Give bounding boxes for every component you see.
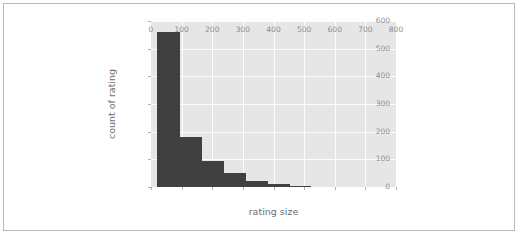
- x-tick-label: 200: [205, 26, 219, 34]
- y-tick-label: 600: [376, 17, 390, 25]
- y-tick-label: 100: [376, 155, 390, 163]
- x-tick-mark: [304, 187, 305, 190]
- x-tick-label: 800: [389, 26, 403, 34]
- y-tick-label: 500: [376, 45, 390, 53]
- x-tick-mark: [365, 187, 366, 190]
- histogram-bar: [202, 161, 224, 187]
- histogram-chart: 0100200300400500600010020030040050060070…: [4, 4, 516, 232]
- x-tick-label: 600: [328, 26, 342, 34]
- x-tick-label: 300: [236, 26, 250, 34]
- x-tick-label: 0: [149, 26, 154, 34]
- x-tick-mark: [243, 187, 244, 190]
- histogram-bar: [224, 173, 246, 187]
- x-axis-label: rating size: [151, 206, 396, 217]
- plot-area: 0100200300400500600010020030040050060070…: [151, 21, 396, 187]
- gridline-vertical: [274, 21, 275, 187]
- x-tick-mark: [396, 187, 397, 190]
- figure-frame: 0100200300400500600010020030040050060070…: [3, 3, 515, 231]
- y-tick-label: 300: [376, 100, 390, 108]
- y-axis-label: count of rating: [106, 69, 117, 139]
- histogram-bar: [268, 184, 290, 187]
- y-tick-label: 200: [376, 128, 390, 136]
- y-tick-label: 0: [385, 183, 390, 191]
- x-tick-label: 400: [266, 26, 280, 34]
- x-tick-mark: [182, 187, 183, 190]
- gridline-vertical: [335, 21, 336, 187]
- x-tick-mark: [212, 187, 213, 190]
- y-tick-mark: [148, 49, 151, 50]
- y-tick-label: 400: [376, 72, 390, 80]
- x-tick-label: 500: [297, 26, 311, 34]
- histogram-bar: [246, 181, 268, 187]
- x-tick-label: 700: [358, 26, 372, 34]
- x-tick-mark: [274, 187, 275, 190]
- y-tick-mark: [148, 159, 151, 160]
- gridline-vertical: [243, 21, 244, 187]
- x-tick-mark: [151, 187, 152, 190]
- histogram-bar: [157, 32, 180, 187]
- gridline-vertical: [304, 21, 305, 187]
- gridline-vertical: [365, 21, 366, 187]
- y-tick-mark: [148, 21, 151, 22]
- histogram-bar: [290, 186, 311, 187]
- y-tick-mark: [148, 104, 151, 105]
- histogram-bar: [180, 137, 202, 187]
- x-tick-mark: [335, 187, 336, 190]
- y-tick-mark: [148, 76, 151, 77]
- y-tick-mark: [148, 132, 151, 133]
